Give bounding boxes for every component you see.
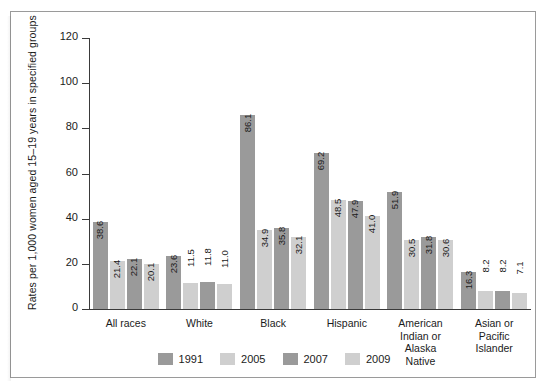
bar: 34.9: [257, 230, 272, 309]
bar: 48.5: [331, 200, 346, 310]
bar-group-bars: 38.621.422.120.1: [93, 38, 159, 309]
y-axis-tick: 80: [82, 128, 89, 129]
bar: 51.9: [387, 192, 402, 309]
bar-value-label: 20.1: [146, 262, 156, 281]
plot-area: 020406080100120 38.621.422.120.1All race…: [89, 38, 531, 309]
bar: 20.1: [144, 264, 159, 309]
y-axis-tick-label: 80: [66, 120, 78, 132]
bar-value-label: 8.2: [498, 259, 508, 272]
bar-value-label: 21.4: [112, 259, 122, 278]
y-axis-tick: 0: [82, 309, 89, 310]
bar-value-label: 48.5: [333, 198, 343, 217]
bar-group-bars: 23.611.511.811.0: [166, 38, 232, 309]
legend-swatch: [158, 353, 173, 365]
y-axis-tick: 40: [82, 219, 89, 220]
bar: 47.9: [348, 201, 363, 309]
bar-value-label: 51.9: [390, 191, 400, 210]
legend-label: 2009: [366, 353, 390, 365]
x-axis-line: [89, 309, 531, 310]
bar-value-label: 23.6: [169, 254, 179, 273]
bar: 30.6: [438, 240, 453, 309]
bar-value-label: 11.8: [203, 249, 213, 267]
bar: 23.6: [166, 256, 181, 309]
bar-group: 16.38.28.27.1Asian or Pacific Islander: [457, 38, 531, 309]
bar-value-label: 69.2: [316, 151, 326, 170]
bar-value-label: 34.9: [260, 229, 270, 248]
bar-value-label: 11.0: [220, 250, 230, 268]
legend-swatch: [283, 353, 298, 365]
legend-label: 2005: [241, 353, 265, 365]
bar: 38.6: [93, 222, 108, 309]
legend-label: 1991: [179, 353, 203, 365]
bar: 11.0: [217, 284, 232, 309]
y-axis-tick-label: 60: [66, 166, 78, 178]
bar: 69.2: [314, 153, 329, 309]
bar: 41.0: [365, 216, 380, 309]
bar: 32.1: [291, 237, 306, 310]
bar-value-label: 7.1: [515, 261, 525, 274]
bar-value-label: 30.5: [407, 239, 417, 258]
bar: 8.2: [478, 291, 493, 310]
legend-swatch: [345, 353, 360, 365]
bar-value-label: 47.9: [350, 200, 360, 219]
bar-value-label: 8.2: [481, 259, 491, 272]
bar-value-label: 32.1: [294, 235, 304, 254]
bar: 21.4: [110, 261, 125, 309]
y-axis-tick-label: 100: [60, 75, 78, 87]
legend-item: 2005: [220, 353, 265, 365]
bar: 11.5: [183, 283, 198, 309]
x-axis-category-label: Asian or Pacific Islander: [451, 317, 537, 355]
y-axis-tick-label: 0: [72, 301, 78, 313]
legend-item: 2007: [283, 353, 328, 365]
bar-group: 86.134.935.832.1Black: [236, 38, 310, 309]
bar-group: 23.611.511.811.0White: [163, 38, 237, 309]
bar-value-label: 31.8: [424, 236, 434, 255]
bar-group: 69.248.547.941.0Hispanic: [310, 38, 384, 309]
y-axis-tick-label: 20: [66, 256, 78, 268]
bar-group-bars: 69.248.547.941.0: [314, 38, 380, 309]
bar-group: 51.930.531.830.6American Indian or Alask…: [384, 38, 458, 309]
legend-item: 1991: [158, 353, 203, 365]
bar-value-label: 38.6: [95, 221, 105, 240]
bar-group: 38.621.422.120.1All races: [89, 38, 163, 309]
bar-value-label: 41.0: [367, 215, 377, 234]
bar-value-label: 35.8: [277, 227, 287, 246]
y-axis-tick-label: 40: [66, 211, 78, 223]
legend-label: 2007: [304, 353, 328, 365]
bar-value-label: 11.5: [186, 249, 196, 267]
legend-item: 2009: [345, 353, 390, 365]
bar: 22.1: [127, 259, 142, 309]
y-axis-tick: 120: [82, 38, 89, 39]
y-axis-tick: 60: [82, 174, 89, 175]
bar-value-label: 22.1: [129, 258, 139, 277]
bar: 31.8: [421, 237, 436, 309]
chart-legend: 1991200520072009: [11, 353, 537, 365]
bar-group-bars: 86.134.935.832.1: [240, 38, 306, 309]
y-axis-tick-label: 120: [60, 30, 78, 42]
bar: 7.1: [512, 293, 527, 309]
bar: 16.3: [461, 272, 476, 309]
y-axis-title: Rates per 1,000 women aged 15–19 years i…: [25, 38, 39, 310]
bar: 11.8: [200, 282, 215, 309]
bar-value-label: 86.1: [243, 113, 253, 132]
bar: 30.5: [404, 240, 419, 309]
bar: 8.2: [495, 291, 510, 310]
bar: 35.8: [274, 228, 289, 309]
legend-swatch: [220, 353, 235, 365]
chart-figure: Rates per 1,000 women aged 15–19 years i…: [0, 0, 545, 391]
bar-group-bars: 16.38.28.27.1: [461, 38, 527, 309]
bar: 86.1: [240, 115, 255, 309]
y-axis-tick: 20: [82, 264, 89, 265]
bar-value-label: 30.6: [441, 239, 451, 258]
bar-value-label: 16.3: [464, 271, 474, 290]
bar-group-bars: 51.930.531.830.6: [387, 38, 453, 309]
y-axis-tick: 100: [82, 83, 89, 84]
figure-frame: Rates per 1,000 women aged 15–19 years i…: [10, 11, 536, 378]
